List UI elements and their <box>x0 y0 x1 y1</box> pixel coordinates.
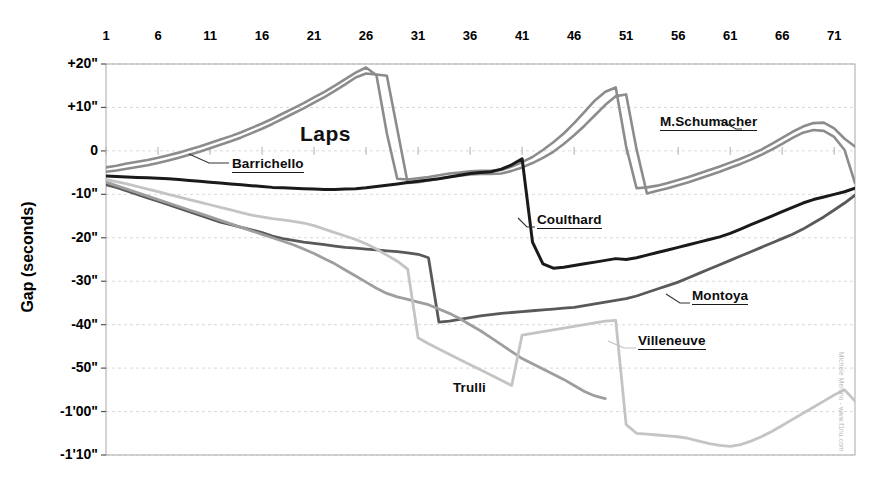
watermark-credit: Michele Merlino - www.f1nu.com <box>838 352 845 462</box>
series-label-villeneuve: Villeneuve <box>638 333 706 350</box>
y-tick-label: -1'00" <box>2 403 98 419</box>
series-label-trulli: Trulli <box>453 380 486 395</box>
chart-canvas <box>0 0 889 489</box>
y-tick-label: -40" <box>2 316 98 332</box>
x-tick-label: 26 <box>346 28 386 43</box>
y-tick-label: +10" <box>2 98 98 114</box>
series-label-barrichello: Barrichello <box>232 156 304 173</box>
x-tick-label: 36 <box>450 28 490 43</box>
x-tick-label: 6 <box>138 28 178 43</box>
y-tick-marks <box>101 64 106 455</box>
plot-heading-laps: Laps <box>300 122 351 146</box>
label-leader-lines <box>189 120 742 348</box>
x-tick-label: 1 <box>86 28 126 43</box>
x-tick-label: 66 <box>762 28 802 43</box>
y-tick-label: -20" <box>2 229 98 245</box>
series-label-coulthard: Coulthard <box>537 212 602 229</box>
x-tick-label: 16 <box>242 28 282 43</box>
x-tick-label: 41 <box>502 28 542 43</box>
x-tick-label: 51 <box>606 28 646 43</box>
x-tick-label: 71 <box>814 28 854 43</box>
y-tick-label: -1'10" <box>2 446 98 462</box>
series-label-montoya: Montoya <box>692 288 748 305</box>
x-tick-label: 21 <box>294 28 334 43</box>
series-label-schumacher: M.Schumacher <box>660 114 757 131</box>
y-tick-label: 0 <box>2 142 98 158</box>
y-tick-label: -50" <box>2 359 98 375</box>
x-tick-label: 46 <box>554 28 594 43</box>
race-gap-chart: Gap (seconds) Laps Barrichello M.Schumac… <box>0 0 889 489</box>
y-tick-label: +20" <box>2 55 98 71</box>
x-tick-label: 11 <box>190 28 230 43</box>
x-tick-label: 31 <box>398 28 438 43</box>
y-tick-label: -10" <box>2 185 98 201</box>
y-tick-label: -30" <box>2 272 98 288</box>
x-tick-label: 56 <box>658 28 698 43</box>
x-tick-label: 61 <box>710 28 750 43</box>
series-line-barrichello <box>106 74 855 194</box>
